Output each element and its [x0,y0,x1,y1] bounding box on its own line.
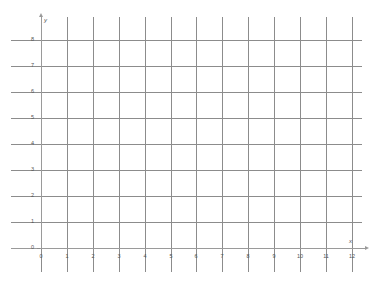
x-axis-label: x [349,238,352,245]
x-axis-tick-label: 12 [345,253,359,260]
y-axis-tick-label: 3 [24,166,34,173]
gridline-horizontal [11,170,362,171]
coordinate-grid-chart: 0123456789101112012345678 x y [0,0,374,289]
x-axis-tick-label: 10 [293,253,307,260]
x-axis-tick [171,249,172,252]
x-axis-tick [274,249,275,252]
x-axis-tick [145,249,146,252]
y-axis-label: y [44,17,47,24]
y-axis-tick [37,248,40,249]
y-axis-line [41,17,42,250]
x-axis-tick [67,249,68,252]
x-axis-tick-label: 9 [267,253,281,260]
x-axis-tick-label: 8 [241,253,255,260]
x-axis-arrow-icon [365,246,369,250]
y-axis-tick-label: 6 [24,88,34,95]
y-axis-tick [37,170,40,171]
gridline-horizontal [11,196,362,197]
y-axis-arrow-icon [39,13,43,17]
x-axis-tick-label: 7 [215,253,229,260]
y-axis-tick [37,118,40,119]
y-axis-tick-label: 5 [24,114,34,121]
y-axis-tick [37,144,40,145]
x-axis-tick-label: 3 [112,253,126,260]
gridline-horizontal [11,144,362,145]
x-axis-tick-label: 0 [34,253,48,260]
x-axis-tick [248,249,249,252]
y-axis-tick-label: 8 [24,36,34,43]
y-axis-tick-label: 2 [24,192,34,199]
gridline-horizontal [11,40,362,41]
x-axis-tick-label: 4 [138,253,152,260]
x-axis-tick [222,249,223,252]
x-axis-tick-label: 6 [189,253,203,260]
x-axis-tick-label: 5 [164,253,178,260]
x-axis-tick [93,249,94,252]
x-axis-tick [41,249,42,252]
y-axis-tick [37,66,40,67]
gridline-horizontal [11,66,362,67]
y-axis-tick-label: 4 [24,140,34,147]
x-axis-tick [300,249,301,252]
x-axis-tick [119,249,120,252]
y-axis-tick [37,40,40,41]
x-axis-tick [196,249,197,252]
gridline-horizontal [11,118,362,119]
y-axis-tick-label: 0 [24,244,34,251]
y-axis-tick [37,222,40,223]
x-axis-tick-label: 1 [60,253,74,260]
x-axis-tick-label: 2 [86,253,100,260]
y-axis-tick [37,92,40,93]
x-axis-tick-label: 11 [319,253,333,260]
y-axis-tick-label: 1 [24,218,34,225]
x-axis-tick [352,249,353,252]
gridline-horizontal [11,222,362,223]
y-axis-tick-label: 7 [24,62,34,69]
gridline-horizontal [11,92,362,93]
x-axis-tick [326,249,327,252]
x-axis-line [11,248,366,249]
y-axis-tick [37,196,40,197]
